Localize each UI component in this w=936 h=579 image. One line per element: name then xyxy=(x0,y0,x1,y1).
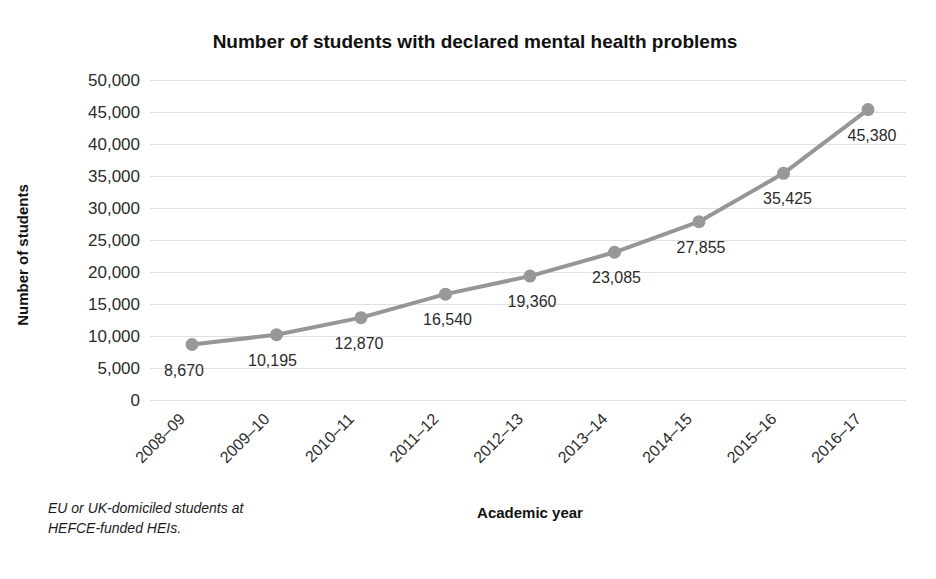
y-axis-tick-label: 45,000 xyxy=(88,103,140,122)
data-point-marker xyxy=(777,167,790,180)
data-point-marker xyxy=(186,338,199,351)
data-point-label: 16,540 xyxy=(423,311,472,328)
data-point-marker xyxy=(608,246,621,259)
chart-title: Number of students with declared mental … xyxy=(213,31,738,52)
x-axis-title: Academic year xyxy=(477,504,583,521)
data-point-marker xyxy=(693,215,706,228)
data-point-marker xyxy=(270,328,283,341)
data-point-label: 35,425 xyxy=(763,190,812,207)
chart-canvas: Number of students with declared mental … xyxy=(0,0,936,579)
y-axis-tick-label: 30,000 xyxy=(88,199,140,218)
y-axis-tick-label: 15,000 xyxy=(88,295,140,314)
y-axis-tick-label: 10,000 xyxy=(88,327,140,346)
data-point-label: 8,670 xyxy=(164,362,204,379)
y-axis-tick-label: 25,000 xyxy=(88,231,140,250)
data-point-label: 12,870 xyxy=(335,335,384,352)
y-axis-title: Number of students xyxy=(14,184,31,326)
data-point-marker xyxy=(439,288,452,301)
data-point-marker xyxy=(355,311,368,324)
y-axis-tick-label: 40,000 xyxy=(88,135,140,154)
line-chart: Number of students with declared mental … xyxy=(0,0,936,579)
data-point-label: 45,380 xyxy=(848,127,897,144)
y-axis-tick-label: 5,000 xyxy=(97,359,140,378)
y-axis-tick-label: 35,000 xyxy=(88,167,140,186)
data-point-marker xyxy=(524,270,537,283)
data-point-label: 19,360 xyxy=(508,293,557,310)
data-point-label: 10,195 xyxy=(248,352,297,369)
y-axis-tick-label: 50,000 xyxy=(88,71,140,90)
footnote-line: HEFCE-funded HEIs. xyxy=(48,520,181,536)
footnote-line: EU or UK-domiciled students at xyxy=(48,500,244,516)
data-point-label: 27,855 xyxy=(677,239,726,256)
data-point-label: 23,085 xyxy=(592,269,641,286)
y-axis-tick-label: 20,000 xyxy=(88,263,140,282)
y-axis-tick-label: 0 xyxy=(131,391,140,410)
data-point-marker xyxy=(862,103,875,116)
